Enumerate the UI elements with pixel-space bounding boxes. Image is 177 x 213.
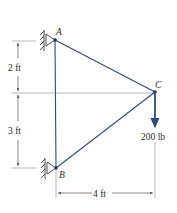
- dim-label-3ft: 3 ft: [8, 126, 21, 136]
- truss-members: [55, 40, 155, 168]
- pin-support-b: [41, 158, 56, 179]
- member-ab: [55, 40, 56, 168]
- node-label-a: A: [55, 27, 62, 37]
- joint-a: [53, 38, 57, 42]
- load-label: 200 lb: [141, 132, 165, 142]
- node-label-c: C: [155, 80, 162, 90]
- extension-lines: [12, 41, 155, 198]
- member-bc: [56, 92, 155, 168]
- pin-support-a: [40, 30, 55, 51]
- joint-b: [54, 166, 58, 170]
- member-ac: [55, 40, 155, 92]
- dim-label-4ft: 4 ft: [93, 189, 106, 199]
- dim-label-2ft: 2 ft: [8, 63, 21, 73]
- truss-diagram: 2 ft 3 ft 4 ft A B C 200 lb: [0, 0, 177, 213]
- node-label-b: B: [59, 170, 65, 180]
